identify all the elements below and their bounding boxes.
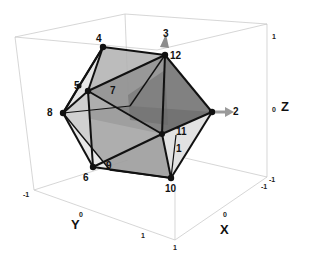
vertex-7	[85, 88, 91, 94]
y-tick-0: 0	[79, 211, 83, 218]
axis-label-y: Y	[71, 218, 80, 231]
vertex-4	[100, 44, 106, 50]
vertex-label-9: 9	[106, 161, 112, 171]
vertex-label-12: 12	[170, 51, 181, 61]
icosahedron-3d-plot[interactable]	[0, 0, 310, 263]
vertex-6	[90, 164, 96, 170]
vertex-label-6: 6	[83, 173, 89, 183]
vertex-label-3: 3	[163, 29, 169, 39]
y-tick-1: 1	[141, 232, 145, 239]
vertex-10	[168, 175, 174, 181]
vertex-label-10: 10	[165, 184, 176, 194]
axis-label-x: X	[220, 223, 229, 236]
vertex-8	[60, 110, 66, 116]
x-tick-1: 1	[173, 244, 177, 251]
x-tick-0: 0	[223, 211, 227, 218]
vertex-label-7: 7	[110, 86, 116, 96]
vertex-12	[162, 52, 168, 58]
vertex-label-8: 8	[47, 108, 53, 118]
vertex-label-2: 2	[233, 107, 239, 117]
vertex-11	[159, 131, 165, 137]
vertex-label-5: 5	[74, 81, 80, 91]
vertex-label-4: 4	[96, 34, 102, 44]
axis-label-z: Z	[281, 100, 289, 113]
z-tick-0: 0	[272, 106, 276, 113]
vertex-2	[209, 109, 215, 115]
vertex-label-1: 1	[176, 144, 182, 154]
z-tick-1: 1	[272, 33, 276, 40]
y-tick-neg1: -1	[23, 191, 29, 198]
x-tick-neg1: -1	[261, 183, 267, 190]
vertex-label-11: 11	[176, 127, 187, 137]
z-tick-neg1: -1	[269, 176, 275, 183]
internal-faces	[63, 47, 212, 178]
